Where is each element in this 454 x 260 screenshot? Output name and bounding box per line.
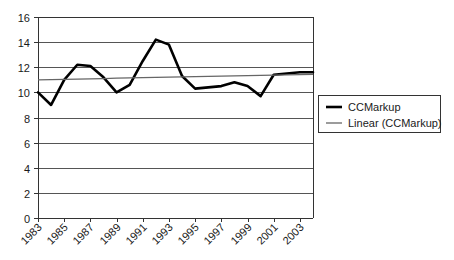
y-tick-label: 16: [18, 12, 30, 24]
x-axis-ticks-group: 1983198519871989199119931995199719992001…: [18, 218, 306, 247]
x-tick-label: 1987: [70, 221, 96, 247]
y-tick-label: 8: [24, 113, 30, 125]
line-chart: 0246810121416 19831985198719891991199319…: [0, 0, 454, 260]
plot-frame: [38, 17, 314, 219]
series-group: [38, 40, 313, 105]
legend-label-linear-ccmarkup: Linear (CCMarkup): [348, 117, 442, 129]
x-tick-label: 1989: [97, 221, 123, 247]
chart-container: 0246810121416 19831985198719891991199319…: [0, 0, 454, 260]
y-tick-label: 6: [24, 138, 30, 150]
x-tick-label: 1983: [18, 221, 44, 247]
y-tick-label: 4: [24, 163, 30, 175]
y-tick-label: 12: [18, 62, 30, 74]
x-tick-label: 1991: [123, 221, 149, 247]
y-tick-label: 2: [24, 188, 30, 200]
x-tick-label: 1997: [201, 221, 227, 247]
y-tick-label: 0: [24, 213, 30, 225]
gridlines-group: [38, 18, 313, 219]
y-tick-label: 14: [18, 37, 30, 49]
x-tick-label: 1993: [149, 221, 175, 247]
legend-label-ccmarkup: CCMarkup: [348, 101, 401, 113]
x-tick-label: 1995: [175, 221, 201, 247]
y-tick-label: 10: [18, 87, 30, 99]
x-tick-label: 2001: [254, 221, 280, 247]
x-tick-label: 1999: [228, 221, 254, 247]
y-axis-ticks-group: 0246810121416: [18, 12, 38, 225]
chart-legend: CCMarkupLinear (CCMarkup): [319, 96, 442, 133]
x-tick-label: 2003: [280, 221, 306, 247]
series-line-ccmarkup: [38, 40, 313, 105]
x-tick-label: 1985: [44, 221, 70, 247]
